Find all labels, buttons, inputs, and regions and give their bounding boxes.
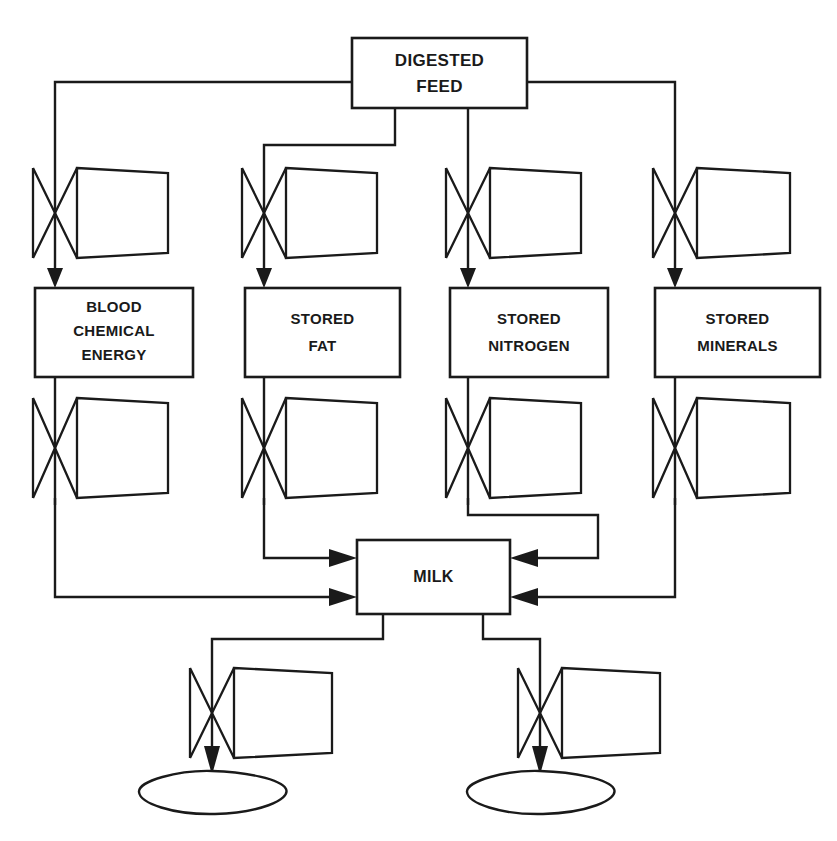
connector-milk-to-sink-left bbox=[212, 614, 383, 668]
flow-diagram-svg: DIGESTED FEED BLOOD CHEMICAL ENERGY STOR… bbox=[0, 0, 837, 841]
stock-box bbox=[655, 288, 820, 377]
flow-diagram-canvas: DIGESTED FEED BLOOD CHEMICAL ENERGY STOR… bbox=[0, 0, 837, 841]
valve-to-stored-fat[interactable] bbox=[242, 168, 377, 288]
stock-box bbox=[245, 288, 400, 377]
arrow-head-icon bbox=[47, 268, 63, 288]
valve-tank-icon bbox=[234, 668, 332, 758]
connector-stored-minerals-to-milk bbox=[527, 498, 675, 597]
connector-feed-to-stored-fat bbox=[264, 108, 395, 168]
arrow-head-icon bbox=[329, 549, 357, 567]
valve-tank-icon bbox=[77, 398, 168, 498]
stock-group: DIGESTED FEED BLOOD CHEMICAL ENERGY STOR… bbox=[35, 38, 820, 614]
valve-stored-fat-to-milk[interactable] bbox=[242, 398, 377, 505]
valve-tank-icon bbox=[697, 398, 790, 498]
connector-milk-to-sink-right bbox=[483, 614, 540, 668]
valve-to-stored-nitrogen[interactable] bbox=[446, 168, 581, 288]
stock-box bbox=[352, 38, 527, 108]
valve-tank-icon bbox=[77, 168, 168, 258]
valve-to-stored-minerals[interactable] bbox=[653, 168, 790, 288]
arrow-head-icon bbox=[510, 588, 538, 606]
arrow-head-icon bbox=[510, 549, 538, 567]
stock-label-line: ENERGY bbox=[81, 346, 146, 363]
valve-tank-icon bbox=[697, 168, 790, 258]
stock-label-line: STORED bbox=[497, 310, 561, 327]
stock-label-line: DIGESTED bbox=[395, 51, 484, 70]
valve-milk-out-right[interactable] bbox=[518, 668, 660, 775]
flow-valve-group bbox=[33, 168, 790, 775]
stock-label-line: STORED bbox=[705, 310, 769, 327]
connector-blood-chemical-energy-to-milk bbox=[55, 498, 340, 597]
connector-feed-to-blood-chemical-energy bbox=[55, 82, 352, 168]
arrow-head-icon bbox=[256, 268, 272, 288]
stock-blood-chemical-energy[interactable]: BLOOD CHEMICAL ENERGY bbox=[35, 288, 193, 377]
stock-stored-minerals[interactable]: STORED MINERALS bbox=[655, 288, 820, 377]
valve-tank-icon bbox=[286, 398, 377, 498]
stock-stored-nitrogen[interactable]: STORED NITROGEN bbox=[450, 288, 608, 377]
valve-to-blood-chemical-energy[interactable] bbox=[33, 168, 168, 288]
valve-stored-minerals-to-milk[interactable] bbox=[653, 398, 790, 505]
valve-tank-icon bbox=[490, 168, 581, 258]
stock-stored-fat[interactable]: STORED FAT bbox=[245, 288, 400, 377]
arrow-head-icon bbox=[329, 588, 357, 606]
stock-label-line: BLOOD bbox=[86, 298, 142, 315]
valve-tank-icon bbox=[286, 168, 377, 258]
stock-label-line: FEED bbox=[416, 77, 463, 96]
sink-right bbox=[467, 771, 615, 814]
connector-stored-fat-to-milk bbox=[264, 498, 340, 558]
stock-box bbox=[450, 288, 608, 377]
valve-milk-out-left[interactable] bbox=[190, 668, 332, 775]
stock-label-line: CHEMICAL bbox=[73, 322, 155, 339]
stock-digested-feed[interactable]: DIGESTED FEED bbox=[352, 38, 527, 108]
valve-stored-nitrogen-to-milk[interactable] bbox=[446, 398, 581, 505]
stock-label-line: NITROGEN bbox=[488, 337, 570, 354]
arrow-head-icon bbox=[667, 268, 683, 288]
stock-label-line: MILK bbox=[413, 568, 453, 585]
stock-label-line: STORED bbox=[290, 310, 354, 327]
valve-tank-icon bbox=[490, 398, 581, 498]
arrow-head-icon bbox=[460, 268, 476, 288]
sink-group bbox=[139, 771, 615, 814]
stock-label-line: MINERALS bbox=[697, 337, 778, 354]
connector-feed-to-stored-minerals bbox=[527, 82, 675, 168]
valve-tank-icon bbox=[562, 668, 660, 758]
stock-label-line: FAT bbox=[308, 337, 336, 354]
stock-milk[interactable]: MILK bbox=[357, 540, 510, 614]
sink-left bbox=[139, 771, 287, 814]
valve-blood-chemical-energy-to-milk[interactable] bbox=[33, 398, 168, 505]
